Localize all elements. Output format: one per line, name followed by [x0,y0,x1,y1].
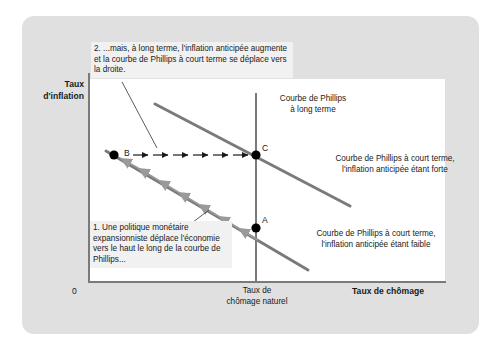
point-label-a: A [262,215,268,225]
x-axis-label: Taux de chômage [352,286,424,297]
callout-long-run-shift: 2. ...mais, à long terme, l'inflation an… [91,42,293,78]
point-A [251,223,260,232]
phillips-curve-figure: A B C 2. ...mais, à long terme, l'inflat… [0,0,501,350]
point-label-b: B [124,148,130,158]
leader-line-callout-2 [122,82,157,148]
natural-rate-label: Taux de chômage naturel [204,285,310,307]
point-B [109,150,118,159]
y-axis-label: Taux d'inflation [26,79,84,102]
origin-label: 0 [72,286,77,297]
label-short-run-curve-high: Courbe de Phillips à court terme, l'infl… [333,153,457,175]
callout-expansionary-policy: 1. Une politique monétaire expansionnist… [90,221,232,268]
label-long-run-phillips-curve: Courbe de Phillips à long terme [258,93,368,115]
label-short-run-curve-low: Courbe de Phillips à court terme, l'infl… [312,228,440,250]
point-label-c: C [262,143,268,153]
point-C [251,150,260,159]
